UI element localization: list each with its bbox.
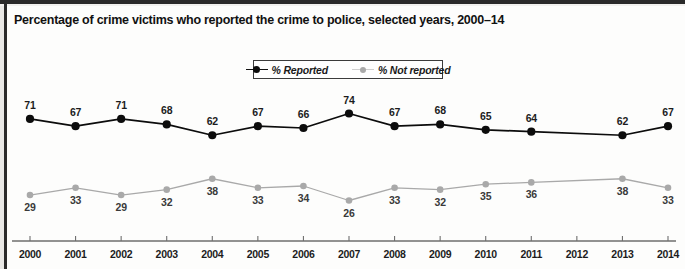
data-point-value-label: 65 [480, 110, 491, 122]
data-point-value-label: 67 [389, 106, 400, 118]
data-point-value-label: 29 [24, 201, 35, 213]
data-point-value-label: 71 [116, 99, 127, 111]
data-point-marker [665, 185, 672, 192]
legend-label-not-reported: % Not reported [378, 64, 450, 76]
page-title: Percentage of crime victims who reported… [14, 13, 654, 28]
x-axis-tick-label: 2005 [247, 248, 269, 260]
data-point-value-label: 32 [435, 196, 446, 208]
data-point-value-label: 66 [298, 108, 309, 120]
legend-label-reported: % Reported [272, 64, 328, 76]
data-point-value-label: 67 [252, 106, 263, 118]
data-point-value-label: 38 [617, 185, 628, 197]
x-axis-tick-label: 2014 [657, 248, 679, 260]
data-point-value-label: 71 [24, 99, 35, 111]
data-point-marker [482, 126, 490, 134]
data-point-value-label: 38 [207, 185, 218, 197]
data-point-value-label: 32 [161, 196, 172, 208]
data-point-marker [209, 175, 216, 182]
x-axis-tick-label: 2001 [64, 248, 86, 260]
data-point-value-label: 68 [161, 104, 172, 116]
legend-item-reported: % Reported [246, 64, 328, 76]
data-point-marker [208, 131, 216, 139]
chart-figure: Percentage of crime victims who reported… [0, 0, 685, 269]
legend-marker-not-reported-icon [352, 65, 374, 74]
data-point-marker [664, 122, 672, 130]
data-point-value-label: 33 [252, 194, 263, 206]
data-point-value-label: 35 [480, 190, 491, 202]
data-point-value-label: 67 [662, 106, 673, 118]
plot-area [0, 0, 685, 269]
page-border-left [4, 0, 7, 269]
x-axis-tick-label: 2012 [566, 248, 588, 260]
data-point-marker [345, 109, 353, 117]
data-point-marker [619, 175, 626, 182]
data-point-marker [437, 186, 444, 193]
data-point-marker [254, 122, 262, 130]
legend-item-not-reported: % Not reported [352, 64, 450, 76]
x-axis-tick-label: 2002 [110, 248, 132, 260]
data-point-marker [391, 185, 398, 192]
data-point-marker [300, 183, 307, 190]
data-point-value-label: 74 [343, 94, 354, 106]
data-point-value-label: 33 [70, 194, 81, 206]
data-point-marker [26, 115, 34, 123]
data-point-marker [436, 120, 444, 128]
data-point-value-label: 33 [662, 194, 673, 206]
x-axis-tick-label: 2004 [201, 248, 223, 260]
data-point-marker [390, 122, 398, 130]
data-point-value-label: 29 [116, 201, 127, 213]
x-axis-tick-label: 2007 [338, 248, 360, 260]
data-point-marker [163, 120, 171, 128]
x-axis-tick-label: 2013 [611, 248, 633, 260]
x-axis-tick-label: 2009 [429, 248, 451, 260]
series-line-reported [30, 114, 668, 136]
data-point-marker [618, 131, 626, 139]
data-point-value-label: 36 [526, 188, 537, 200]
data-point-marker [346, 197, 353, 204]
data-point-value-label: 62 [617, 115, 628, 127]
data-point-marker [299, 124, 307, 132]
data-point-marker [482, 181, 489, 188]
data-point-value-label: 62 [207, 115, 218, 127]
data-point-value-label: 26 [343, 207, 354, 219]
page-border-top-inner [0, 4, 685, 6]
data-point-marker [72, 185, 79, 192]
x-axis-tick-label: 2000 [19, 248, 41, 260]
data-point-marker [71, 122, 79, 130]
data-point-marker [163, 186, 170, 193]
legend-marker-reported-icon [246, 65, 268, 74]
x-axis-tick-label: 2011 [520, 248, 542, 260]
x-axis-tick-label: 2008 [383, 248, 405, 260]
x-axis-tick-label: 2010 [475, 248, 497, 260]
x-axis-tick-label: 2006 [292, 248, 314, 260]
data-point-value-label: 64 [526, 112, 537, 124]
data-point-marker [27, 192, 34, 199]
data-point-value-label: 33 [389, 194, 400, 206]
data-point-marker [528, 179, 535, 186]
data-point-value-label: 68 [435, 104, 446, 116]
plot-svg [0, 0, 685, 269]
series-line-not-reported [30, 179, 668, 201]
chart-legend: % Reported % Not reported [253, 60, 443, 79]
data-point-marker [255, 185, 262, 192]
data-point-marker [117, 115, 125, 123]
x-axis-tick-label: 2003 [156, 248, 178, 260]
data-point-marker [527, 128, 535, 136]
data-point-value-label: 34 [298, 192, 309, 204]
data-point-value-label: 67 [70, 106, 81, 118]
data-point-marker [118, 192, 125, 199]
